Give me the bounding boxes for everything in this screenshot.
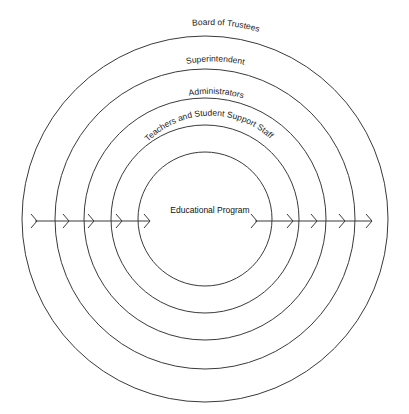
arrow-left-icon: [31, 214, 150, 228]
ring-educational-program: [138, 152, 272, 286]
core-label-educational-program: Educational Program: [170, 205, 249, 215]
ring-label-board-of-trustees: Board of Trustees: [192, 17, 261, 34]
arrow-right-icon: [251, 214, 372, 228]
concentric-diagram: Board of Trustees Superintendent Adminis…: [0, 0, 409, 414]
ring-teachers-and-student-support-staff: [111, 125, 299, 313]
ring-label-superintendent: Superintendent: [185, 53, 246, 66]
